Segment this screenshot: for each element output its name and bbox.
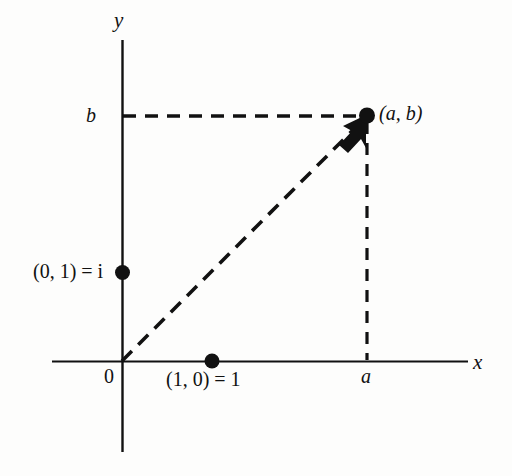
x-axis-tick-label-a: a [361,366,371,386]
point-label-ab: (a, b) [379,103,422,123]
origin-label: 0 [104,366,114,386]
y-axis-tick-label-b: b [86,105,96,125]
point-label-one: (1, 0) = 1 [166,369,241,389]
point-marker-ab [359,108,375,124]
point-label-i: (0, 1) = i [33,261,103,281]
figure-container: y x b a 0 (a, b) (0, 1) = i (1, 0) = 1 [0,0,512,476]
vector-arrow-line [122,129,354,361]
point-marker-i [115,265,130,280]
coordinate-diagram [0,0,512,476]
y-axis-label: y [114,10,123,31]
point-marker-one [205,354,220,369]
x-axis-label: x [473,352,482,373]
